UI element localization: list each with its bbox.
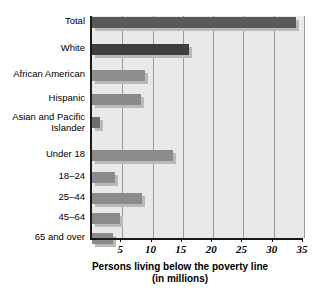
bar-total	[92, 17, 296, 28]
bar-row	[92, 44, 193, 57]
category-axis-labels: TotalWhiteAfrican AmericanHispanicAsian …	[0, 18, 88, 238]
category-label-45-64: 45–64	[59, 212, 85, 223]
gridline-30	[274, 16, 275, 238]
x-axis-line	[90, 238, 302, 240]
category-label-18-24: 18–24	[59, 171, 85, 182]
category-label-white: White	[61, 43, 85, 54]
poverty-bar-chart: TotalWhiteAfrican AmericanHispanicAsian …	[0, 0, 319, 297]
x-tick-mark-15	[181, 238, 182, 242]
bar-row	[92, 117, 104, 130]
bar-row	[92, 17, 300, 30]
bar-white	[92, 44, 189, 55]
x-tick-mark-10	[151, 238, 152, 242]
category-label-hispanic: Hispanic	[49, 93, 85, 104]
x-tick-mark-5	[120, 238, 121, 242]
bar-18-24	[92, 172, 115, 183]
bar-african-american	[92, 70, 145, 81]
bar-hispanic	[92, 94, 141, 105]
bar-45-64	[92, 213, 120, 224]
bar-row	[92, 213, 124, 226]
category-label-under-18: Under 18	[46, 149, 85, 160]
x-tick-label-25: 25	[229, 243, 253, 255]
category-label-25-44: 25–44	[59, 192, 85, 203]
bar-row	[92, 150, 177, 163]
gridline-20	[213, 16, 214, 238]
bar-row	[92, 172, 119, 185]
category-label-african-american: African American	[13, 69, 85, 80]
x-tick-label-30: 30	[260, 243, 284, 255]
x-tick-label-10: 10	[139, 243, 163, 255]
x-axis-title-line2: (in millions)	[50, 273, 310, 285]
x-tick-mark-35	[302, 238, 303, 242]
x-tick-label-15: 15	[169, 243, 193, 255]
bar-25-44	[92, 193, 142, 204]
gridline-35	[304, 16, 305, 238]
x-tick-label-20: 20	[199, 243, 223, 255]
x-tick-label-5: 5	[108, 243, 132, 255]
x-tick-mark-25	[241, 238, 242, 242]
gridline-25	[243, 16, 244, 238]
category-label-65-and-over: 65 and over	[35, 232, 85, 243]
bar-row	[92, 94, 145, 107]
x-tick-mark-30	[272, 238, 273, 242]
category-label-total: Total	[65, 16, 85, 27]
x-axis-title-line1: Persons living below the poverty line	[92, 261, 268, 272]
bar-row	[92, 70, 149, 83]
bar-under-18	[92, 150, 173, 161]
x-tick-mark-20	[211, 238, 212, 242]
category-label-asian-and-pacific: Asian and Pacific Islander	[12, 112, 85, 133]
plot-area	[90, 16, 304, 238]
x-tick-label-35: 35	[290, 243, 314, 255]
x-axis-title: Persons living below the poverty line (i…	[50, 261, 310, 285]
bar-asian-and-pacific	[92, 117, 100, 128]
bar-row	[92, 193, 146, 206]
